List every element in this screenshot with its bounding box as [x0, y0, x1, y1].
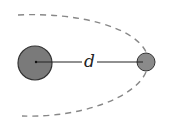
distance-label: d	[82, 53, 97, 69]
large-center-dot	[35, 61, 37, 63]
large-body	[18, 46, 52, 80]
